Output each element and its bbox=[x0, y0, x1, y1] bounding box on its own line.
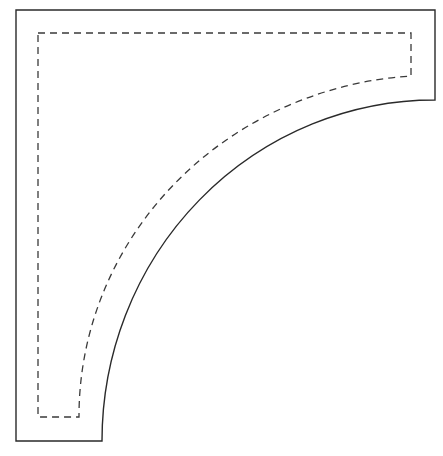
inner-seam-line bbox=[38, 33, 411, 417]
outer-cut-line bbox=[16, 10, 435, 441]
corner-pattern-diagram bbox=[0, 0, 443, 456]
